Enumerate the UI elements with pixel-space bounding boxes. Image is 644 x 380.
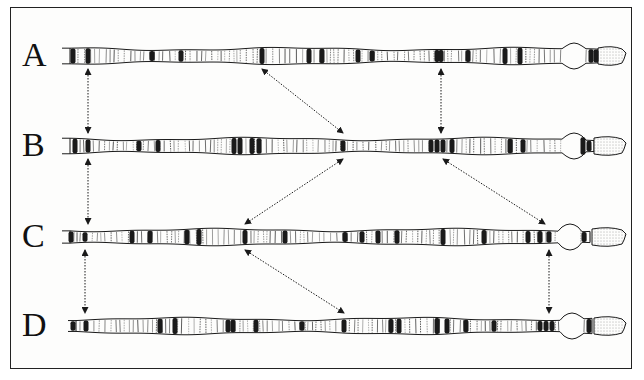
- homology-arrow: [443, 159, 545, 224]
- dark-band: [71, 321, 76, 331]
- dark-band: [544, 321, 549, 331]
- chromosome-d: [68, 313, 626, 339]
- dark-band: [343, 232, 348, 242]
- homology-arrow: [262, 69, 343, 133]
- dark-band: [397, 319, 402, 334]
- dark-band: [441, 229, 446, 245]
- chromosome-a: [62, 43, 626, 69]
- dark-band: [341, 141, 346, 152]
- dark-band: [503, 48, 508, 64]
- chromosome-c: [62, 224, 626, 250]
- dark-band: [300, 321, 305, 331]
- dark-band: [376, 230, 381, 243]
- dark-band: [589, 49, 594, 62]
- dark-band: [435, 318, 440, 334]
- dark-band: [86, 140, 91, 153]
- dark-band: [156, 140, 161, 152]
- dark-band: [150, 51, 155, 61]
- dark-band: [587, 319, 592, 333]
- dark-band: [137, 141, 142, 152]
- dark-band: [158, 319, 163, 334]
- dark-band: [582, 232, 587, 242]
- chromosome-b: [62, 133, 626, 159]
- dark-band: [283, 231, 288, 244]
- dark-band: [526, 231, 531, 243]
- dark-band: [71, 49, 76, 64]
- dark-band: [356, 49, 361, 62]
- dark-band: [441, 139, 446, 152]
- dark-band: [83, 232, 88, 242]
- dark-band: [148, 231, 153, 244]
- dark-band: [550, 321, 555, 331]
- dark-band: [243, 230, 248, 244]
- dark-band: [360, 231, 365, 243]
- homology-arrow: [245, 159, 343, 224]
- dark-band: [538, 321, 543, 331]
- dark-band: [518, 48, 523, 64]
- dark-band: [587, 141, 592, 151]
- dark-band: [342, 319, 347, 332]
- dark-band: [466, 50, 471, 62]
- dark-band: [86, 48, 91, 63]
- dark-band: [581, 137, 586, 155]
- dark-band: [464, 320, 469, 332]
- dark-band: [538, 231, 543, 243]
- dark-band: [320, 49, 325, 63]
- dark-band: [130, 231, 135, 243]
- dark-band: [84, 321, 89, 332]
- dark-band: [226, 320, 231, 333]
- dark-band: [232, 138, 237, 154]
- dark-band: [254, 320, 259, 332]
- dark-band: [521, 139, 526, 152]
- dark-band: [594, 50, 599, 63]
- dark-band: [547, 231, 552, 242]
- dark-band: [250, 138, 255, 154]
- homology-arrow: [245, 250, 344, 313]
- dark-band: [429, 140, 434, 153]
- dark-band: [185, 230, 190, 244]
- dark-band: [492, 320, 497, 331]
- dark-band: [307, 49, 312, 63]
- dark-band: [238, 138, 243, 154]
- dark-band: [395, 230, 400, 243]
- dark-band: [508, 139, 513, 154]
- dark-band: [445, 319, 450, 334]
- dark-band: [179, 50, 184, 61]
- dark-band: [389, 319, 394, 333]
- dark-band: [231, 320, 236, 332]
- dark-band: [450, 139, 455, 153]
- dark-band: [370, 50, 375, 61]
- dark-band: [435, 140, 440, 153]
- dark-band: [197, 229, 202, 245]
- dark-band: [257, 138, 262, 154]
- dark-band: [173, 318, 178, 334]
- dark-band: [439, 50, 444, 62]
- dark-band: [69, 231, 74, 242]
- chromosome-diagram: [0, 0, 644, 380]
- dark-band: [260, 48, 265, 64]
- dark-band: [482, 230, 487, 244]
- dark-band: [73, 139, 78, 153]
